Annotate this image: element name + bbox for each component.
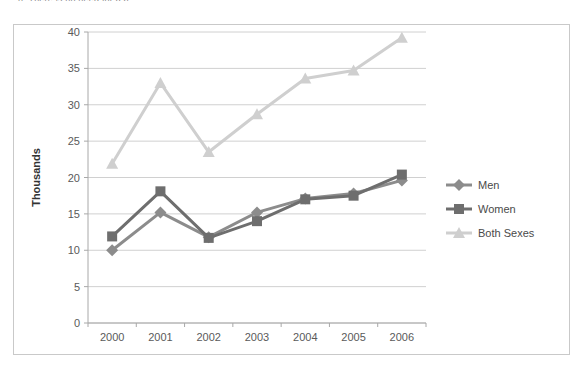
data-point-marker bbox=[252, 216, 262, 226]
chart-frame: 0510152025303540 20002001200220032004200… bbox=[13, 24, 570, 355]
data-point-marker bbox=[204, 233, 214, 243]
data-point-marker bbox=[107, 231, 117, 241]
y-tick-label: 25 bbox=[68, 135, 80, 147]
y-tick-label: 0 bbox=[74, 317, 80, 329]
series-women bbox=[107, 170, 407, 243]
tickmarks-group bbox=[84, 32, 426, 327]
y-tick-label: 10 bbox=[68, 244, 80, 256]
data-point-marker bbox=[454, 204, 464, 214]
x-tick-label: 2000 bbox=[100, 331, 124, 343]
data-point-marker bbox=[396, 32, 408, 43]
data-series-group bbox=[106, 32, 408, 256]
data-point-marker bbox=[300, 194, 310, 204]
legend-label: Women bbox=[478, 203, 516, 215]
y-tick-label: 15 bbox=[68, 208, 80, 220]
x-tick-label: 2005 bbox=[341, 331, 365, 343]
gridlines-group bbox=[88, 32, 426, 323]
y-axis-title: Thousands bbox=[30, 148, 42, 207]
y-tick-label: 20 bbox=[68, 172, 80, 184]
x-tick-label: 2001 bbox=[148, 331, 172, 343]
legend-label: Men bbox=[478, 179, 499, 191]
data-point-marker bbox=[154, 77, 166, 88]
y-tick-label: 35 bbox=[68, 62, 80, 74]
chart-legend: MenWomenBoth Sexes bbox=[446, 179, 535, 239]
series-both-sexes bbox=[106, 32, 408, 169]
x-tick-label: 2002 bbox=[196, 331, 220, 343]
x-tick-label: 2003 bbox=[245, 331, 269, 343]
x-axis-tick-labels: 2000200120022003200420052006 bbox=[100, 331, 414, 343]
data-point-marker bbox=[397, 170, 407, 180]
legend-item-both-sexes[interactable]: Both Sexes bbox=[446, 227, 535, 239]
y-axis-tick-labels: 0510152025303540 bbox=[68, 26, 80, 329]
legend-item-men[interactable]: Men bbox=[446, 179, 499, 191]
series-men bbox=[106, 174, 408, 256]
x-tick-label: 2004 bbox=[293, 331, 317, 343]
y-tick-label: 40 bbox=[68, 26, 80, 38]
clipped-page-text: n. There is no need for a p bbox=[18, 0, 129, 1]
data-point-marker bbox=[155, 186, 165, 196]
legend-label: Both Sexes bbox=[478, 227, 535, 239]
y-tick-label: 30 bbox=[68, 99, 80, 111]
y-tick-label: 5 bbox=[74, 281, 80, 293]
data-point-marker bbox=[453, 179, 465, 191]
legend-item-women[interactable]: Women bbox=[446, 203, 516, 215]
data-point-marker bbox=[349, 191, 359, 201]
line-chart: 0510152025303540 20002001200220032004200… bbox=[14, 25, 569, 354]
x-tick-label: 2006 bbox=[390, 331, 414, 343]
